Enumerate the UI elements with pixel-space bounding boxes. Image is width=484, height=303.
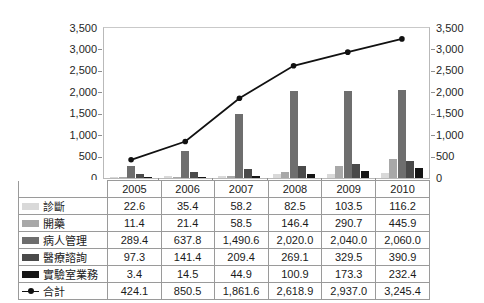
legend-key: 診斷 <box>22 198 65 214</box>
y-axis-right-tickmark <box>431 71 435 72</box>
y-axis-left-tick-label: 1,000 <box>69 130 97 141</box>
table-cell-value: 290.7 <box>322 215 376 232</box>
y-axis-right-tickmark <box>431 49 435 50</box>
y-axis-right-tickmark <box>431 157 435 158</box>
table-cell-value: 58.2 <box>214 198 268 215</box>
chart-with-data-table: 05001,0001,5002,0002,5003,0003,500 05001… <box>0 0 484 303</box>
table-cell-value: 58.5 <box>214 215 268 232</box>
legend-row-label: 合計 <box>19 283 108 300</box>
legend-swatch-icon <box>22 237 39 244</box>
table-cell-value: 2,618.9 <box>268 283 322 300</box>
legend-row-label: 病人管理 <box>19 232 108 249</box>
table-cell-value: 173.3 <box>322 266 376 283</box>
table-cell-value: 1,861.6 <box>214 283 268 300</box>
total-line-series: 合計 2005: 424.1合計 2006: 850.5合計 2007: 1,8… <box>104 28 429 178</box>
data-table: 200520062007200820092010 診斷22.635.458.28… <box>18 180 430 300</box>
table-cell-value: 2,060.0 <box>376 232 430 249</box>
table-corner-cell <box>19 181 108 198</box>
table-header-year: 2010 <box>376 181 430 198</box>
table-header: 200520062007200820092010 <box>19 181 430 198</box>
table-header-year: 2007 <box>214 181 268 198</box>
table-cell-value: 146.4 <box>268 215 322 232</box>
total-line-marker: 合計 2008: 2,618.9 <box>291 63 297 69</box>
table-cell-value: 329.5 <box>322 249 376 266</box>
table-body: 診斷22.635.458.282.5103.5116.2開藥11.421.458… <box>19 198 430 300</box>
table-row: 實驗室業務3.414.544.9100.9173.3232.4 <box>19 266 430 283</box>
legend-key: 醫療諮詢 <box>22 249 87 265</box>
table-header-year: 2008 <box>268 181 322 198</box>
table-cell-value: 2,937.0 <box>322 283 376 300</box>
legend-label-text: 合計 <box>43 283 65 299</box>
table-cell-value: 2,020.0 <box>268 232 322 249</box>
table-cell-value: 116.2 <box>376 198 430 215</box>
line-dot <box>28 288 34 294</box>
table-cell-value: 232.4 <box>376 266 430 283</box>
y-axis-right: 05001,0001,5002,0002,5003,0003,500 <box>436 20 484 186</box>
legend-key: 開藥 <box>22 215 65 231</box>
legend-swatch-icon <box>22 220 39 227</box>
total-line-marker: 合計 2005: 424.1 <box>128 157 134 163</box>
total-line-path <box>131 39 402 160</box>
table-header-year: 2006 <box>161 181 214 198</box>
y-axis-right-tick-label: 3,500 <box>436 23 464 34</box>
table-cell-value: 637.8 <box>161 232 214 249</box>
total-line-svg: 合計 2005: 424.1合計 2006: 850.5合計 2007: 1,8… <box>104 28 429 178</box>
table-cell-value: 82.5 <box>268 198 322 215</box>
legend-swatch-icon <box>22 271 39 278</box>
y-axis-right-tickmark <box>431 92 435 93</box>
table-row: 合計424.1850.51,861.62,618.92,937.03,245.4 <box>19 283 430 300</box>
y-axis-right-tick-label: 1,000 <box>436 130 464 141</box>
table-header-year: 2005 <box>108 181 161 198</box>
legend-row-label: 診斷 <box>19 198 108 215</box>
y-axis-left-tick-label: 2,000 <box>69 87 97 98</box>
legend-label-text: 診斷 <box>43 198 65 214</box>
total-line-marker: 合計 2006: 850.5 <box>182 139 188 145</box>
y-axis-left-tickmark <box>98 114 102 115</box>
y-axis-left-tick-label: 1,500 <box>69 108 97 119</box>
table-cell-value: 3,245.4 <box>376 283 430 300</box>
total-line-marker: 合計 2010: 3,245.4 <box>399 36 405 42</box>
table-cell-value: 850.5 <box>161 283 214 300</box>
y-axis-left: 05001,0001,5002,0002,5003,0003,500 <box>37 20 97 186</box>
y-axis-left-tickmark <box>98 157 102 158</box>
table-header-row: 200520062007200820092010 <box>19 181 430 198</box>
table-cell-value: 22.6 <box>108 198 161 215</box>
table-cell-value: 100.9 <box>268 266 322 283</box>
table-cell-value: 269.1 <box>268 249 322 266</box>
y-axis-left-tickmark <box>98 92 102 93</box>
table-cell-value: 424.1 <box>108 283 161 300</box>
legend-row-label: 實驗室業務 <box>19 266 108 283</box>
table-row: 病人管理289.4637.81,490.62,020.02,040.02,060… <box>19 232 430 249</box>
y-axis-right-tick-label: 0 <box>436 173 442 184</box>
table-cell-value: 209.4 <box>214 249 268 266</box>
y-axis-left-tick-label: 3,000 <box>69 44 97 55</box>
table-row: 醫療諮詢97.3141.4209.4269.1329.5390.9 <box>19 249 430 266</box>
chart-plot-region: 05001,0001,5002,0002,5003,0003,500 05001… <box>0 0 484 190</box>
legend-label-text: 開藥 <box>43 215 65 231</box>
legend-label-text: 實驗室業務 <box>43 266 98 282</box>
table-header-year: 2009 <box>322 181 376 198</box>
legend-label-text: 病人管理 <box>43 232 87 248</box>
table-row: 開藥11.421.458.5146.4290.7445.9 <box>19 215 430 232</box>
line-marker-icon <box>22 288 39 295</box>
total-line-marker: 合計 2007: 1,861.6 <box>237 95 243 101</box>
legend-label-text: 醫療諮詢 <box>43 249 87 265</box>
legend-swatch-icon <box>22 203 39 210</box>
legend-key: 合計 <box>22 283 65 299</box>
y-axis-right-tick-label: 2,000 <box>436 87 464 98</box>
y-axis-right-tick-label: 2,500 <box>436 65 464 76</box>
y-axis-right-tick-label: 500 <box>436 151 454 162</box>
table-cell-value: 3.4 <box>108 266 161 283</box>
y-axis-right-tick-label: 1,500 <box>436 108 464 119</box>
table-row: 診斷22.635.458.282.5103.5116.2 <box>19 198 430 215</box>
table-cell-value: 445.9 <box>376 215 430 232</box>
legend-key: 實驗室業務 <box>22 266 98 282</box>
y-axis-left-tickmark <box>98 135 102 136</box>
table-cell-value: 11.4 <box>108 215 161 232</box>
table-cell-value: 21.4 <box>161 215 214 232</box>
y-axis-left-tickmark <box>98 49 102 50</box>
y-axis-left-tick-label: 2,500 <box>69 65 97 76</box>
table-cell-value: 1,490.6 <box>214 232 268 249</box>
total-line-marker: 合計 2009: 2,937.0 <box>345 49 351 55</box>
table-cell-value: 97.3 <box>108 249 161 266</box>
